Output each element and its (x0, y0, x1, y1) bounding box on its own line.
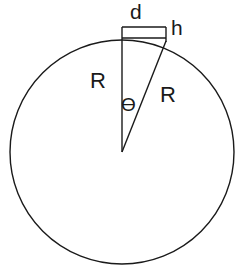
label-radius-right: R (160, 84, 176, 106)
label-chord-offset-d: d (130, 1, 142, 22)
label-radius-left: R (90, 70, 106, 92)
geometry-svg (0, 0, 245, 269)
diagram-canvas: d h R R ϴ (0, 0, 245, 269)
label-central-angle-theta: ϴ (121, 95, 136, 114)
label-height-h: h (171, 17, 183, 38)
